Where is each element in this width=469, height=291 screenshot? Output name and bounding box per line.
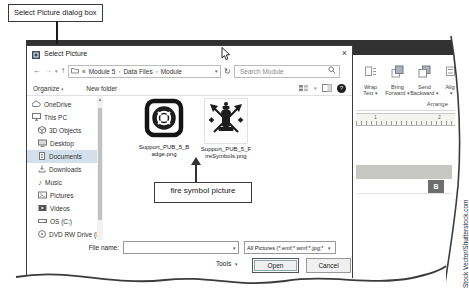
view-mode-icon[interactable] — [299, 84, 309, 93]
video-icon — [38, 204, 47, 213]
chevron-down-icon: ▾ — [328, 245, 331, 251]
sidebar-item-label: 3D Objects — [49, 127, 81, 134]
help-icon[interactable]: ? — [337, 84, 346, 93]
back-icon[interactable]: ← — [33, 66, 41, 76]
close-icon[interactable]: × — [342, 49, 347, 58]
ribbon-label: Backward — [410, 90, 434, 96]
callout-leader-line — [56, 21, 58, 44]
breadcrumb-crumb[interactable]: Module — [161, 68, 182, 75]
fire-symbols-image-thumbnail — [204, 98, 248, 144]
callout-fire-symbol: fire symbol picture — [154, 182, 252, 203]
up-icon[interactable]: ↑ — [61, 66, 65, 76]
picture-icon — [38, 191, 47, 200]
cloud-icon — [32, 100, 41, 109]
ribbon-label: Forward — [385, 90, 405, 96]
ribbon-pane: Wrap Text ▾ Bring Forward ▾ Send Backwar… — [356, 55, 455, 285]
file-name-line: adge.png — [151, 151, 176, 157]
cancel-button[interactable]: Cancel — [306, 258, 351, 273]
preview-pane-icon[interactable] — [322, 84, 332, 93]
forward-icon[interactable]: → — [44, 66, 52, 76]
file-name-combobox[interactable]: ▾ — [123, 241, 239, 254]
download-icon — [38, 165, 46, 174]
table-cell-b[interactable]: B — [428, 180, 444, 193]
sidebar-item-label: Music — [45, 179, 62, 186]
file-name: Support_PUB_5_B adge.png — [139, 144, 190, 158]
sidebar-item-3d-objects[interactable]: 3D Objects — [27, 124, 97, 137]
open-button[interactable]: Open — [252, 258, 299, 273]
sidebar-item-label: Desktop — [50, 140, 74, 147]
sidebar-item-downloads[interactable]: Downloads — [27, 163, 97, 176]
dialog-title: Select Picture — [44, 50, 87, 57]
organize-label: Organize — [33, 85, 59, 92]
tools-button[interactable]: Tools ▾ — [216, 260, 240, 267]
new-folder-button[interactable]: New folder — [86, 85, 117, 92]
dropdown-icon: ▾ — [450, 90, 453, 96]
ribbon-label: Text — [363, 90, 373, 96]
disc-icon — [38, 230, 46, 239]
view-controls: ▾ ? — [299, 84, 346, 93]
address-dropdown-icon[interactable]: ▾ — [215, 68, 218, 74]
table-row: B — [356, 180, 452, 194]
dialog-toolbar: Organize ▾ New folder ▾ ? — [27, 81, 352, 96]
sidebar-item-videos[interactable]: Videos — [27, 202, 97, 215]
desktop-icon — [38, 139, 47, 148]
sidebar-item-pictures[interactable]: Pictures — [27, 189, 97, 202]
figure: Select Picture dialog box Wrap Text ▾ Br… — [0, 0, 469, 291]
file-name-input[interactable] — [124, 243, 233, 252]
ribbon-buttons: Wrap Text ▾ Bring Forward ▾ Send Backwar… — [358, 65, 455, 96]
organize-button[interactable]: Organize ▾ — [33, 85, 64, 92]
dropdown-icon: ▾ — [235, 261, 238, 267]
align-icon — [445, 65, 455, 84]
view-dropdown-icon[interactable]: ▾ — [314, 85, 317, 91]
sidebar-item-label: OneDrive — [44, 101, 71, 108]
publisher-window: Wrap Text ▾ Bring Forward ▾ Send Backwar… — [26, 38, 455, 285]
sidebar-item-label: DVD RW Drive (D — [49, 231, 101, 238]
dialog-app-icon — [32, 45, 40, 63]
breadcrumb-prefix: « — [82, 68, 86, 75]
sidebar-scrollbar[interactable]: ▲ ▼ — [97, 96, 103, 246]
file-list: Support_PUB_5_B adge.png — [111, 96, 351, 246]
file-type-dropdown[interactable]: All Pictures (*.emf;*.wmf;*.jpg;* ▾ — [244, 241, 336, 254]
address-bar[interactable]: « Module 5 › Data Files › Module ▾ — [68, 65, 221, 78]
refresh-icon[interactable]: ↻ — [224, 67, 231, 76]
search-box[interactable] — [234, 65, 340, 78]
horizontal-ruler: 1 2 — [356, 113, 455, 126]
sidebar-item-label: Videos — [50, 205, 70, 212]
bring-forward-icon — [391, 65, 404, 84]
bring-forward-button[interactable]: Bring Forward ▾ — [385, 65, 410, 96]
scroll-up-icon[interactable]: ▲ — [97, 97, 103, 103]
dropdown-icon: ▾ — [61, 86, 64, 92]
sidebar-item-this-pc[interactable]: This PC — [27, 111, 97, 124]
search-input[interactable] — [238, 67, 328, 76]
navigation-sidebar: OneDrive This PC 3D Objects Desktop — [27, 96, 97, 246]
file-name-line: ireSymbols.png — [205, 153, 246, 159]
sidebar-item-label: Documents — [49, 153, 82, 160]
ruler-number: 2 — [438, 114, 441, 120]
select-picture-dialog: Select Picture × ← → ▾ ↑ « Module 5 › Da… — [26, 45, 353, 278]
sidebar-item-music[interactable]: ♪ Music — [27, 176, 97, 189]
sidebar-item-label: OS (C:) — [50, 218, 72, 225]
file-item-fire-symbols[interactable]: Support_PUB_5_F ireSymbols.png — [203, 98, 249, 160]
sidebar-item-os-c[interactable]: OS (C:) — [27, 215, 97, 228]
send-backward-icon — [418, 65, 431, 84]
file-name: Support_PUB_5_F ireSymbols.png — [201, 146, 251, 160]
sidebar-item-desktop[interactable]: Desktop — [27, 137, 97, 150]
breadcrumb-crumb[interactable]: Data Files — [123, 68, 152, 75]
align-button[interactable]: Align ▾ — [439, 65, 455, 96]
breadcrumb-crumb[interactable]: Module 5 — [89, 68, 116, 75]
ribbon-group-arrange: Arrange — [356, 101, 448, 107]
dialog-navigation-row: ← → ▾ ↑ « Module 5 › Data Files › Module… — [27, 63, 352, 79]
wrap-text-button[interactable]: Wrap Text ▾ — [358, 65, 383, 96]
send-backward-button[interactable]: Send Backward ▾ — [412, 65, 437, 96]
sidebar-item-onedrive[interactable]: OneDrive — [27, 98, 97, 111]
callout-dialog-label: Select Picture dialog box — [8, 4, 103, 22]
ruler-number: 1 — [374, 114, 377, 120]
breadcrumb-separator: › — [156, 68, 158, 74]
chevron-down-icon[interactable]: ▾ — [233, 245, 236, 251]
file-item-badge[interactable]: Support_PUB_5_B adge.png — [141, 98, 187, 158]
file-type-value: All Pictures (*.emf;*.wmf;*.jpg;* — [247, 245, 328, 251]
recent-locations-icon[interactable]: ▾ — [55, 68, 58, 74]
sidebar-item-documents[interactable]: Documents — [27, 150, 97, 163]
scrollbar-thumb[interactable] — [98, 108, 102, 220]
dialog-titlebar[interactable]: Select Picture × — [27, 46, 352, 61]
